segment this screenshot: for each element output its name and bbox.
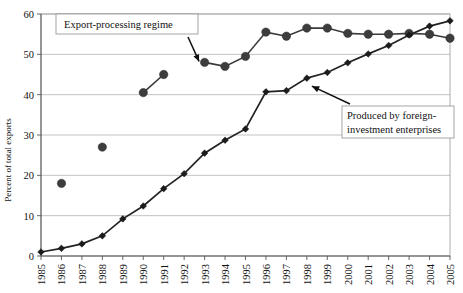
x-tick-label: 1989 [118,264,129,285]
data-point-diamond [426,23,433,30]
x-tick-label: 1993 [200,264,211,285]
x-tick-label: 1992 [179,264,190,285]
y-tick-label: 20 [24,170,35,181]
x-tick-label: 1987 [77,264,88,285]
x-tick-label: 1997 [281,264,292,285]
x-tick-label: 2003 [404,264,415,285]
x-tick-label: 1996 [261,264,272,285]
x-tick-label: 1986 [56,264,67,285]
x-tick-label: 1998 [302,264,313,285]
data-point-diamond [344,60,351,67]
data-point-circle [364,30,372,38]
x-tick-label: 1991 [159,264,170,285]
y-tick-label: 0 [29,251,34,262]
annotation-label-export-processing: Export-processing regime [64,19,173,30]
data-point-circle [98,143,106,151]
data-point-circle [241,52,249,60]
y-tick-label: 60 [24,9,35,20]
data-point-circle [344,29,352,37]
y-tick-label: 40 [24,90,35,101]
x-tick-label: 1985 [36,264,47,285]
data-point-diamond [58,245,65,252]
data-point-circle [282,32,290,40]
data-point-circle [384,30,392,38]
data-point-circle [303,24,311,32]
data-point-diamond [79,241,86,248]
x-axis-ticks: 1985198619871988198919901991199219931994… [36,256,456,285]
data-point-diamond [324,69,331,76]
data-point-circle [200,58,208,66]
data-point-circle [446,34,454,42]
percent-of-total-exports-chart: 0102030405060 19851986198719881989199019… [0,0,463,293]
data-point-diamond [447,18,454,25]
data-point-circle [221,62,229,70]
y-axis-title: Percent of total exports [3,118,13,202]
x-tick-label: 1990 [138,264,149,285]
data-point-circle [160,70,168,78]
data-point-circle [425,30,433,38]
x-tick-label: 1999 [322,264,333,285]
x-tick-label: 2005 [445,264,456,285]
x-tick-label: 2004 [425,263,436,285]
y-tick-label: 50 [24,49,35,60]
annotations: Export-processing regimeProduced by fore… [56,14,454,138]
x-tick-label: 2000 [343,264,354,285]
chart-container: 0102030405060 19851986198719881989199019… [0,0,463,293]
data-point-circle [57,179,65,187]
x-tick-label: 1994 [220,263,231,285]
annotation-label-foreign-investment-line1: Produced by foreign- [347,110,437,121]
y-tick-label: 30 [24,130,35,141]
data-point-diamond [242,126,249,133]
x-tick-label: 2001 [363,264,374,285]
x-tick-label: 1995 [241,264,252,285]
data-point-circle [323,24,331,32]
y-tick-label: 10 [24,211,35,222]
data-point-diamond [38,249,45,256]
annotation-label-foreign-investment-line2: investment enterprises [347,124,441,135]
data-point-circle [262,28,270,36]
data-point-diamond [385,42,392,49]
x-tick-label: 2002 [384,264,395,285]
y-axis-ticks: 0102030405060 [24,9,42,262]
data-point-circle [139,88,147,96]
x-tick-label: 1988 [97,264,108,285]
data-point-diamond [365,51,372,58]
